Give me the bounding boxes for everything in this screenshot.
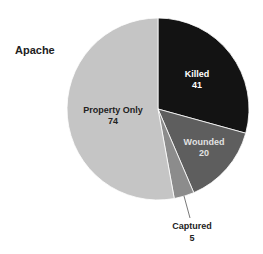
slice-value-wounded: 20 — [199, 148, 209, 158]
slice-value-killed: 41 — [192, 80, 202, 90]
slice-label-killed: Killed — [185, 69, 210, 79]
slice-label-property-only: Property Only — [83, 105, 143, 115]
captured-leader-line — [184, 196, 190, 218]
slice-label-wounded: Wounded — [184, 137, 225, 147]
slice-label-captured: Captured — [172, 221, 212, 231]
pie-chart: Killed 41 Wounded 20 Property Only 74 Ca… — [0, 0, 263, 254]
slice-value-captured: 5 — [189, 233, 194, 243]
slice-value-property-only: 74 — [108, 116, 118, 126]
